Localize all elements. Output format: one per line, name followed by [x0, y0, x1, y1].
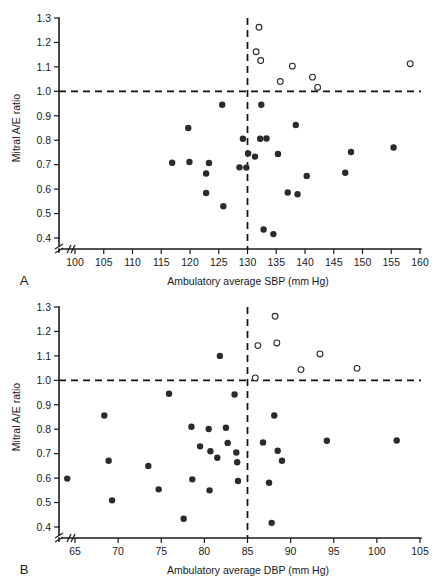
data-point-open-a-1: [256, 24, 262, 30]
data-point-open-b-0: [252, 375, 258, 381]
data-point-filled-b-18: [231, 391, 237, 397]
panel-b-labels: Ambulatory average DBP (mm Hg)Mitral A/E…: [10, 383, 329, 577]
data-point-filled-a-8: [236, 164, 242, 170]
data-point-filled-b-0: [64, 475, 70, 481]
data-point-filled-b-16: [223, 425, 229, 431]
data-point-open-b-5: [317, 351, 323, 357]
y-tick-label-b-8: 1.2: [36, 325, 51, 337]
data-point-filled-b-21: [235, 478, 241, 484]
data-point-filled-b-20: [234, 459, 240, 465]
y-tick-label-b-7: 1.1: [36, 350, 51, 362]
data-point-filled-a-6: [219, 102, 225, 108]
y-tick-label-a-6: 1.0: [36, 85, 51, 97]
data-point-filled-b-2: [105, 458, 111, 464]
panel-a-axes: 0.40.50.60.70.80.91.01.11.21.31001051101…: [36, 12, 429, 268]
x-tick-label-b-8: 105: [411, 545, 429, 557]
data-point-open-b-6: [354, 365, 360, 371]
y-tick-label-a-5: 0.9: [36, 110, 51, 122]
data-point-filled-a-17: [270, 231, 276, 237]
data-point-filled-a-1: [185, 125, 191, 131]
data-point-filled-a-9: [240, 136, 246, 142]
data-point-filled-a-11: [245, 150, 251, 156]
data-point-filled-a-16: [263, 135, 269, 141]
y-axis-title-a: Mitral A/E ratio: [10, 94, 22, 162]
data-point-filled-a-14: [258, 102, 264, 108]
y-tick-label-b-5: 0.9: [36, 399, 51, 411]
data-point-filled-a-20: [293, 122, 299, 128]
x-axis-title-a: Ambulatory average SBP (mm Hg): [167, 275, 328, 287]
data-point-filled-a-5: [206, 160, 212, 166]
scatter-figure: 0.40.50.60.70.80.91.01.11.21.31001051101…: [0, 0, 439, 579]
data-point-filled-b-26: [274, 448, 280, 454]
data-point-filled-b-13: [207, 448, 213, 454]
data-point-filled-b-9: [189, 476, 195, 482]
x-tick-label-a-8: 140: [296, 256, 314, 268]
data-point-filled-a-2: [186, 159, 192, 165]
y-tick-label-a-2: 0.6: [36, 183, 51, 195]
data-point-filled-b-22: [260, 439, 266, 445]
x-tick-label-b-1: 70: [112, 545, 124, 557]
data-point-filled-b-23: [266, 480, 272, 486]
x-tick-label-a-4: 120: [181, 256, 199, 268]
x-tick-label-a-11: 155: [382, 256, 400, 268]
data-point-filled-a-12: [252, 153, 258, 159]
data-point-open-a-2: [258, 58, 264, 64]
x-tick-label-a-0: 100: [66, 256, 84, 268]
x-tick-label-b-0: 65: [69, 545, 81, 557]
data-point-open-b-2: [272, 313, 278, 319]
data-point-filled-b-17: [224, 440, 230, 446]
data-point-filled-b-3: [109, 497, 115, 503]
data-point-filled-a-21: [294, 191, 300, 197]
data-point-filled-a-25: [390, 144, 396, 150]
y-tick-label-b-9: 1.3: [36, 301, 51, 313]
panel-b-points: [64, 313, 400, 526]
x-tick-label-b-7: 100: [368, 545, 386, 557]
data-point-open-b-1: [255, 343, 261, 349]
data-point-open-a-6: [315, 85, 321, 91]
x-tick-label-b-2: 75: [155, 545, 167, 557]
panel-b: 0.40.50.60.70.80.91.01.11.21.36570758085…: [0, 289, 439, 579]
x-tick-label-a-2: 110: [124, 256, 141, 268]
x-tick-label-a-12: 160: [411, 256, 429, 268]
data-point-filled-b-27: [279, 458, 285, 464]
y-tick-label-b-0: 0.4: [36, 521, 51, 533]
data-point-filled-a-19: [285, 189, 291, 195]
panel-letter-a: A: [20, 273, 29, 288]
y-tick-label-a-9: 1.3: [36, 12, 51, 24]
panel-letter-b: B: [20, 562, 29, 577]
y-tick-label-a-0: 0.4: [36, 232, 51, 244]
data-point-filled-b-8: [188, 424, 194, 430]
data-point-filled-b-10: [197, 443, 203, 449]
y-axis-title-b: Mitral A/E ratio: [10, 383, 22, 451]
y-tick-label-b-4: 0.8: [36, 423, 51, 435]
data-point-open-a-5: [310, 74, 316, 80]
y-tick-label-a-4: 0.8: [36, 134, 51, 146]
data-point-filled-b-6: [166, 391, 172, 397]
data-point-open-a-3: [277, 79, 283, 85]
data-point-filled-b-15: [217, 353, 223, 359]
data-point-filled-b-19: [233, 449, 239, 455]
y-tick-label-b-6: 1.0: [36, 374, 51, 386]
panel-a: 0.40.50.60.70.80.91.01.11.21.31001051101…: [0, 0, 439, 290]
data-point-open-a-0: [253, 49, 259, 55]
x-tick-label-a-6: 130: [239, 256, 257, 268]
data-point-open-a-7: [407, 61, 413, 67]
panel-a-reference-lines: [59, 18, 421, 249]
y-tick-label-b-3: 0.7: [36, 447, 51, 459]
data-point-open-b-3: [274, 340, 280, 346]
y-tick-label-a-1: 0.5: [36, 207, 51, 219]
data-point-filled-a-18: [275, 151, 281, 157]
x-tick-label-a-9: 145: [325, 256, 343, 268]
data-point-filled-b-29: [394, 437, 400, 443]
x-tick-label-a-5: 125: [210, 256, 228, 268]
data-point-filled-a-7: [220, 203, 226, 209]
data-point-filled-b-11: [205, 426, 211, 432]
y-tick-label-a-3: 0.7: [36, 158, 51, 170]
x-tick-label-a-1: 105: [95, 256, 113, 268]
data-point-filled-b-7: [180, 515, 186, 521]
data-point-filled-b-4: [145, 463, 151, 469]
data-point-filled-a-10: [243, 164, 249, 170]
data-point-filled-b-1: [101, 412, 107, 418]
data-point-filled-b-25: [271, 412, 277, 418]
panel-b-plot: 0.40.50.60.70.80.91.01.11.21.36570758085…: [0, 289, 439, 579]
